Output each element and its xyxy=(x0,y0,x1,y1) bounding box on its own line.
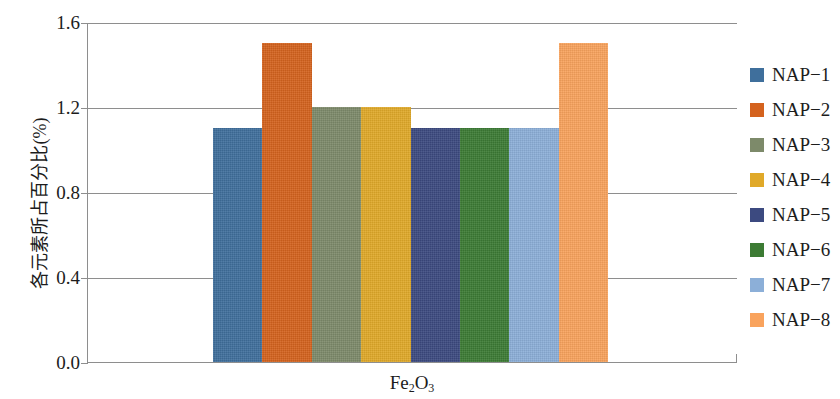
legend-label: NAP−6 xyxy=(772,239,830,261)
bar-nap-5 xyxy=(411,128,460,362)
legend-label: NAP−3 xyxy=(772,134,830,156)
legend-item-nap-6[interactable]: NAP−6 xyxy=(750,232,840,267)
y-tick-label-3: 1.2 xyxy=(34,97,80,119)
legend-swatch-icon-nap-4 xyxy=(750,173,764,187)
legend-item-nap-3[interactable]: NAP−3 xyxy=(750,127,840,162)
legend-item-nap-8[interactable]: NAP−8 xyxy=(750,302,840,337)
y-axis-tick-labels: 0.0 0.4 0.8 1.2 1.6 xyxy=(32,0,80,399)
bar-nap-1 xyxy=(213,128,262,362)
legend-label: NAP−4 xyxy=(772,169,830,191)
legend-swatch-icon-nap-2 xyxy=(750,103,764,117)
legend-swatch-icon-nap-6 xyxy=(750,243,764,257)
y-tick-label-0: 0.0 xyxy=(34,352,80,374)
legend-swatch-icon-nap-1 xyxy=(750,68,764,82)
plot-area xyxy=(87,23,737,363)
legend-label: NAP−2 xyxy=(772,99,830,121)
bar-nap-4 xyxy=(361,107,410,362)
legend-swatch-icon-nap-5 xyxy=(750,208,764,222)
bar-nap-3 xyxy=(312,107,361,362)
legend-item-nap-1[interactable]: NAP−1 xyxy=(750,57,840,92)
bar-nap-2 xyxy=(262,43,311,362)
bar-group xyxy=(87,23,737,363)
legend-label: NAP−8 xyxy=(772,309,830,331)
legend-item-nap-4[interactable]: NAP−4 xyxy=(750,162,840,197)
y-tick-label-4: 1.6 xyxy=(34,12,80,34)
legend-label: NAP−7 xyxy=(772,274,830,296)
bar-nap-6 xyxy=(460,128,509,362)
legend-item-nap-2[interactable]: NAP−2 xyxy=(750,92,840,127)
x-axis-title-text: Fe2O3 xyxy=(390,372,435,393)
legend-item-nap-5[interactable]: NAP−5 xyxy=(750,197,840,232)
y-tick-label-2: 0.8 xyxy=(34,182,80,204)
legend: NAP−1NAP−2NAP−3NAP−4NAP−5NAP−6NAP−7NAP−8 xyxy=(750,57,840,337)
bar-chart-figure: 各元素所占百分比(%) 0.0 0.4 0.8 1.2 1.6 Fe2O3 NA… xyxy=(0,0,840,399)
legend-swatch-icon-nap-7 xyxy=(750,278,764,292)
legend-label: NAP−5 xyxy=(772,204,830,226)
y-tick-label-1: 0.4 xyxy=(34,267,80,289)
legend-swatch-icon-nap-3 xyxy=(750,138,764,152)
bar-nap-7 xyxy=(509,128,558,362)
x-axis-title: Fe2O3 xyxy=(87,372,737,394)
legend-item-nap-7[interactable]: NAP−7 xyxy=(750,267,840,302)
legend-label: NAP−1 xyxy=(772,64,830,86)
legend-swatch-icon-nap-8 xyxy=(750,313,764,327)
y-tick-mark-0.0 xyxy=(81,363,88,364)
bar-nap-8 xyxy=(559,43,608,362)
